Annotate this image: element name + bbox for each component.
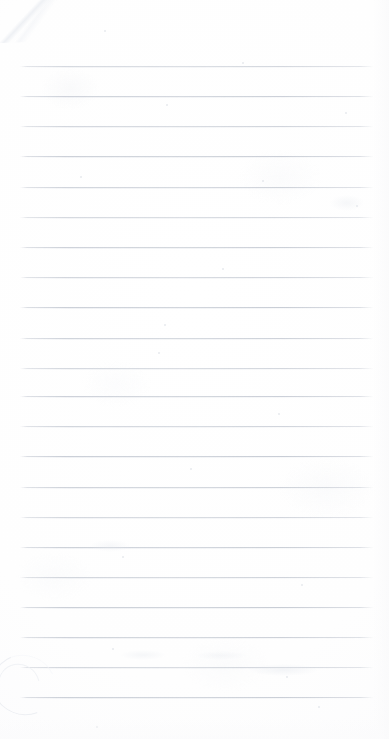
ruled-line: [20, 126, 374, 127]
dust-speck: [222, 268, 224, 270]
dust-speck: [286, 676, 288, 678]
dust-speck: [166, 104, 168, 106]
dust-speck: [190, 468, 192, 470]
ruled-line: [20, 697, 374, 698]
ruled-line: [20, 517, 374, 518]
ruled-line: [20, 607, 374, 608]
dust-speck: [112, 648, 114, 650]
ruled-line: [20, 577, 374, 578]
ruled-line: [20, 547, 374, 548]
dust-speck: [122, 556, 124, 558]
ruled-line: [20, 247, 374, 248]
ruled-line: [20, 396, 374, 397]
dust-speck: [242, 62, 244, 64]
right-edge-falloff: [373, 0, 389, 739]
ruled-line: [20, 217, 374, 218]
ruled-line: [20, 66, 374, 67]
ruled-line: [20, 456, 374, 457]
ruled-line: [20, 368, 374, 369]
bottom-edge-falloff: [0, 717, 389, 739]
ruled-line: [20, 307, 374, 308]
ruled-line: [20, 187, 374, 188]
dust-speck: [345, 112, 347, 114]
dust-speck: [80, 176, 82, 178]
ruled-line: [20, 637, 374, 638]
dust-speck: [262, 180, 264, 182]
dust-speck: [278, 413, 280, 415]
dust-speck: [301, 584, 303, 586]
ruled-lines-layer: [0, 0, 389, 739]
dust-speck: [356, 205, 358, 207]
ruled-line: [20, 156, 374, 157]
ruled-line: [20, 426, 374, 427]
ruled-line: [20, 487, 374, 488]
ruled-line: [20, 667, 374, 668]
dust-speck: [164, 324, 166, 326]
notebook-page: [0, 0, 389, 739]
ruled-line: [20, 338, 374, 339]
dust-speck: [158, 352, 160, 354]
ruled-line: [20, 96, 374, 97]
dust-speck: [318, 706, 320, 708]
dust-speck: [104, 30, 106, 32]
ruled-line: [20, 277, 374, 278]
